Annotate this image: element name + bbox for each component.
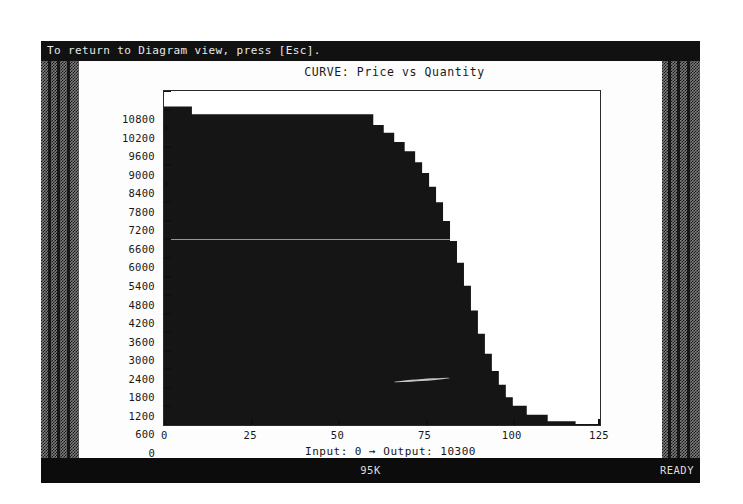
y-tick-label: 5400 [129,280,156,292]
y-tick-label: 7200 [129,224,156,236]
y-tick-label: 3000 [129,354,156,366]
y-tick-mark [164,405,171,407]
y-tick-mark [164,90,171,92]
y-tick-mark [164,183,171,185]
y-tick-label: 6000 [129,261,156,273]
y-axis-labels: 1080010200960090008400780072006600600054… [79,90,159,424]
x-tick-label: 50 [331,429,344,441]
y-tick-mark [164,368,171,370]
left-decorative-rail [41,60,79,458]
y-tick-label: 2400 [129,373,156,385]
x-tick-mark [426,419,428,425]
x-tick-label: 100 [502,429,522,441]
ready-indicator: READY [660,458,694,483]
y-tick-label: 10200 [122,132,155,144]
price-quantity-curve [164,91,600,425]
y-tick-label: 7800 [129,206,156,218]
x-tick-mark [251,419,253,425]
x-tick-mark [164,419,166,425]
y-tick-mark [164,350,171,352]
y-tick-label: 10800 [122,113,155,125]
y-tick-mark [164,109,171,111]
y-tick-mark [164,313,171,315]
y-tick-mark [164,127,171,129]
y-tick-mark [164,387,171,389]
x-axis-labels: 0255075100125 [163,429,599,445]
x-tick-label: 125 [589,429,609,441]
y-tick-label: 3600 [129,336,156,348]
x-tick-mark [338,419,340,425]
x-tick-label: 75 [418,429,431,441]
memory-indicator: 95K [41,458,700,483]
y-tick-label: 1800 [129,391,156,403]
x-tick-label: 0 [161,429,168,441]
y-tick-mark [164,146,171,148]
plot-paper: CURVE: Price vs Quantity 108001020096009… [79,61,662,458]
y-tick-label: 6600 [129,243,156,255]
y-tick-label: 600 [135,428,155,440]
y-tick-mark [164,164,171,166]
plot-area [163,90,601,426]
x-tick-mark [598,419,600,425]
y-tick-mark [164,238,171,240]
y-tick-label: 9000 [129,169,156,181]
y-tick-mark [164,294,171,296]
y-tick-label: 9600 [129,150,156,162]
y-tick-mark [164,331,171,333]
midline-artifact [164,239,600,240]
x-tick-mark [513,419,515,425]
y-tick-label: 4800 [129,299,156,311]
io-readout: Input: 0 → Output: 10300 [79,445,662,458]
status-bar: 95K READY [41,458,700,483]
y-tick-label: 4200 [129,317,156,329]
y-tick-mark [164,220,171,222]
crt-screen: To return to Diagram view, press [Esc]. … [0,0,743,504]
y-tick-mark [164,257,171,259]
x-tick-label: 25 [244,429,257,441]
escape-hint-message: To return to Diagram view, press [Esc]. [41,41,700,61]
y-tick-mark [164,276,171,278]
chart-title: CURVE: Price vs Quantity [79,65,662,79]
y-tick-label: 1200 [129,410,156,422]
y-tick-label: 8400 [129,187,156,199]
right-decorative-rail [662,60,700,458]
y-tick-mark [164,201,171,203]
